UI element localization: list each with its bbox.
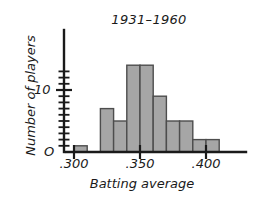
histogram-bar (127, 65, 140, 152)
histogram-bar (100, 109, 113, 152)
histogram-bar (140, 65, 153, 152)
origin-label: O (44, 144, 54, 159)
y-tick-label-10: 10 (34, 82, 51, 97)
histogram-bar (153, 96, 166, 152)
histogram-bar (114, 121, 127, 152)
bars-group (74, 65, 219, 152)
histogram-bar (180, 121, 193, 152)
x-axis-label: Batting average (62, 176, 222, 191)
x-tick-label: .400 (192, 156, 221, 171)
histogram-bar (193, 140, 206, 152)
plot-area (0, 0, 272, 203)
plot-svg (0, 0, 272, 203)
x-tick-label: .350 (126, 156, 155, 171)
histogram-bar (166, 121, 179, 152)
histogram-figure: 1931–1960 Number of players Batting aver… (0, 0, 272, 203)
x-tick-label: .300 (60, 156, 89, 171)
histogram-bar (206, 140, 219, 152)
